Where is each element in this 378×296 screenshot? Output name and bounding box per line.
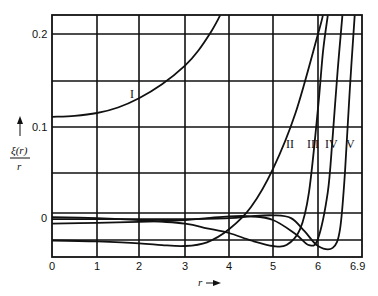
curve-label-I: I	[130, 87, 134, 101]
x-tick-6: 6	[315, 260, 321, 272]
curve-label-II: II	[286, 137, 294, 151]
y-tick-0: 0	[41, 212, 47, 224]
curve-label-V: V	[346, 137, 355, 151]
y-tick-0-1: 0.1	[32, 121, 47, 133]
svg-text:r: r	[198, 276, 203, 288]
x-axis-label: r	[198, 276, 221, 288]
x-tick-5: 5	[270, 260, 276, 272]
x-tick-4: 4	[226, 260, 232, 272]
arrow-up-icon	[17, 116, 23, 124]
curve-III	[52, 15, 328, 247]
y-tick-0-2: 0.2	[32, 28, 47, 40]
x-tick-0: 0	[49, 260, 55, 272]
curve-II	[52, 15, 323, 246]
x-tick-6-9: 6.9	[350, 260, 365, 272]
chart: 0 1 2 3 4 5 6 6.9 0.2 0.1 0 ξ(r) r r I I…	[0, 0, 378, 296]
y-axis-label: ξ(r) r	[10, 116, 30, 172]
x-tick-3: 3	[182, 260, 188, 272]
arrow-right-icon	[213, 280, 221, 286]
x-tick-1: 1	[94, 260, 100, 272]
curve-IV	[52, 15, 342, 245]
curve-label-III: III	[307, 137, 319, 151]
svg-text:r: r	[17, 160, 22, 172]
curve-label-IV: IV	[325, 137, 338, 151]
curve-I	[52, 15, 220, 116]
svg-text:ξ(r): ξ(r)	[11, 144, 28, 157]
x-tick-2: 2	[136, 260, 142, 272]
